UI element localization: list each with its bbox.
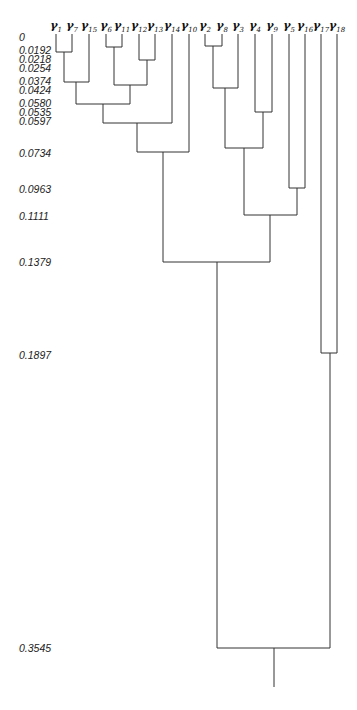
dendrogram: 0 0.0192 0.0218 0.0254 0.0374 0.0424 0.0… <box>0 0 357 710</box>
dendrogram-lines <box>0 0 357 710</box>
